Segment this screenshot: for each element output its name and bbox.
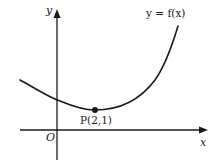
origin-label: O [46, 132, 55, 143]
y-axis-arrow-icon [54, 9, 61, 18]
point-p-marker [92, 107, 98, 113]
x-axis-arrow-icon [199, 127, 208, 134]
point-p-label: P(2,1) [80, 115, 112, 126]
y-axis-label: y [46, 5, 52, 16]
function-curve [20, 26, 178, 110]
curve-label: y = f(x) [146, 8, 185, 19]
graph-canvas [0, 0, 219, 161]
x-axis-label: x [200, 137, 206, 148]
